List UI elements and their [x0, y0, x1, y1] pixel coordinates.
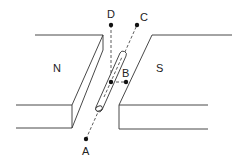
north-magnet [16, 35, 103, 128]
point-a-dot [84, 137, 88, 141]
north-label: N [53, 62, 61, 74]
point-b-dot [124, 80, 128, 84]
point-b-left-dot [109, 80, 113, 84]
south-magnet [119, 35, 232, 129]
point-d-label: D [107, 8, 115, 20]
point-c-label: C [140, 11, 148, 23]
point-d-dot [109, 23, 113, 27]
point-b-label: B [122, 67, 129, 79]
south-label: S [156, 62, 163, 74]
points [84, 23, 139, 141]
point-c-dot [135, 23, 139, 27]
magnet-rod-diagram: N S A B C D [0, 0, 241, 164]
point-a-label: A [82, 145, 90, 157]
